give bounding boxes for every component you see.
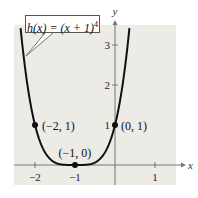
function-label: h(x) = (x + 1) [27,21,94,35]
point-marker [32,122,38,128]
y-axis-arrow-icon [113,20,118,25]
plot-background [14,25,176,185]
y-tick-label: 1 [105,119,111,131]
x-axis-arrow-icon [181,163,186,168]
y-tick-label: 3 [105,39,111,51]
y-axis-label: y [112,5,118,17]
point-marker [112,122,118,128]
point-label: (−2, 1) [42,119,75,133]
x-tick-label: −2 [29,171,41,183]
x-tick-label: 1 [152,171,158,183]
x-axis-label: x [187,159,193,171]
x-tick-label: −1 [69,171,81,183]
point-label: (−1, 0) [59,146,92,160]
point-label: (0, 1) [121,119,147,133]
point-marker [72,162,78,168]
function-label-box: h(x) = (x + 1)4 [25,15,100,33]
y-tick-label: 2 [105,79,111,91]
function-exponent: 4 [94,20,98,29]
